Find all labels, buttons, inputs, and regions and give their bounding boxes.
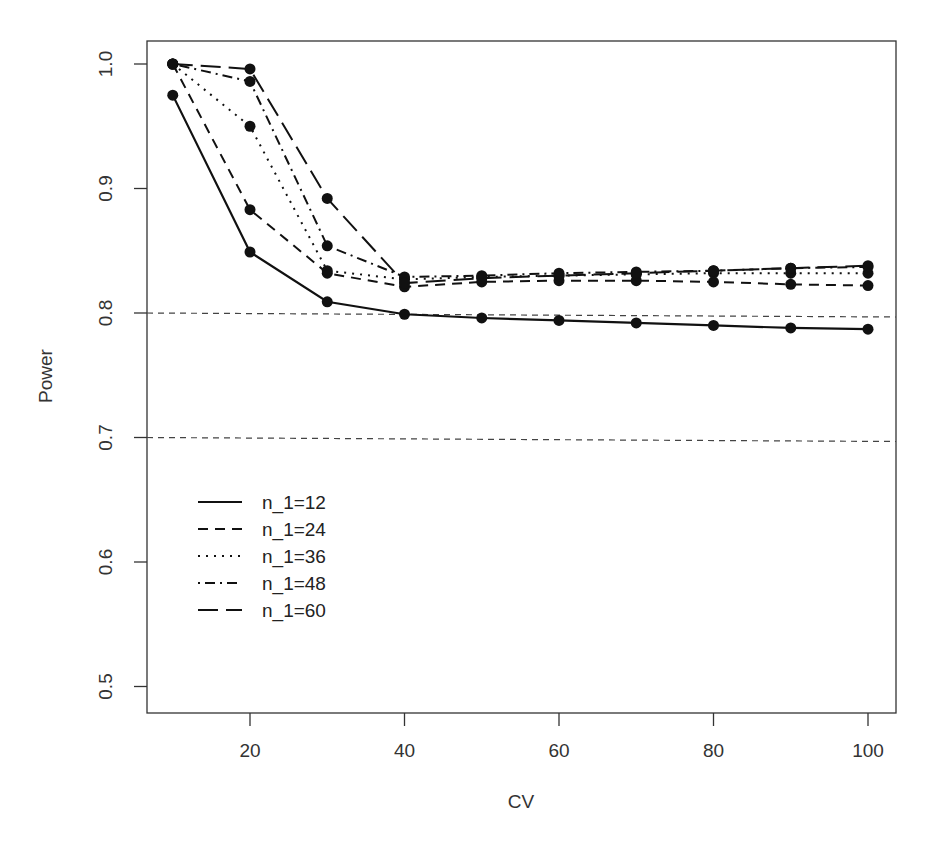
legend-label: n_1=48: [262, 573, 326, 595]
series-n-1-48: [167, 59, 873, 283]
series-line: [173, 95, 868, 329]
data-point: [399, 309, 410, 320]
data-point: [863, 324, 874, 335]
data-point: [785, 279, 796, 290]
data-point: [167, 59, 178, 70]
data-point: [631, 317, 642, 328]
series-line: [173, 64, 868, 279]
data-point: [554, 315, 565, 326]
data-point: [245, 63, 256, 74]
data-point: [322, 265, 333, 276]
data-point: [785, 263, 796, 274]
plot-frame: [147, 41, 896, 713]
x-axis: 20406080100: [239, 713, 883, 761]
data-point: [322, 193, 333, 204]
data-point: [708, 265, 719, 276]
data-point: [631, 268, 642, 279]
y-axis-title: Power: [35, 348, 56, 403]
series-lines: [167, 59, 873, 335]
reference-line-0_7: [147, 438, 896, 442]
x-axis-title: CV: [508, 791, 535, 812]
series-line: [173, 64, 868, 277]
y-tick-label: 0.5: [95, 673, 116, 699]
data-point: [245, 246, 256, 257]
y-tick-label: 0.6: [95, 549, 116, 575]
series-line: [173, 64, 868, 283]
data-point: [167, 90, 178, 101]
data-point: [785, 322, 796, 333]
data-point: [554, 270, 565, 281]
data-point: [245, 204, 256, 215]
legend-item: n_1=36: [198, 546, 326, 568]
y-tick-label: 1.0: [95, 51, 116, 77]
x-tick-label: 60: [548, 740, 569, 761]
reference-lines: [147, 313, 896, 442]
data-point: [399, 278, 410, 289]
series-n-1-24: [167, 59, 873, 293]
reference-line-0_8: [147, 313, 896, 317]
x-tick-label: 80: [703, 740, 724, 761]
legend-item: n_1=60: [198, 600, 326, 622]
series-n-1-60: [167, 59, 873, 289]
legend-item: n_1=24: [198, 519, 326, 541]
legend: n_1=12n_1=24n_1=36n_1=48n_1=60: [198, 492, 326, 622]
x-tick-label: 20: [239, 740, 260, 761]
series-line: [173, 64, 868, 287]
y-tick-label: 0.8: [95, 300, 116, 326]
legend-label: n_1=60: [262, 600, 326, 622]
legend-label: n_1=36: [262, 546, 326, 568]
data-point: [245, 76, 256, 87]
x-tick-label: 40: [394, 740, 415, 761]
data-point: [863, 260, 874, 271]
legend-label: n_1=24: [262, 519, 326, 541]
data-point: [245, 121, 256, 132]
data-point: [476, 273, 487, 284]
data-point: [322, 240, 333, 251]
data-point: [322, 296, 333, 307]
y-tick-label: 0.9: [95, 175, 116, 201]
legend-item: n_1=12: [198, 492, 326, 514]
data-point: [863, 280, 874, 291]
data-point: [476, 312, 487, 323]
series-n-1-12: [167, 90, 873, 335]
y-tick-label: 0.7: [95, 424, 116, 450]
data-point: [708, 320, 719, 331]
series-n-1-36: [167, 59, 873, 285]
power-vs-cv-chart: 20406080100 0.50.60.70.80.91.0 CV Power …: [0, 0, 932, 856]
y-axis: 0.50.60.70.80.91.0: [95, 51, 147, 700]
legend-label: n_1=12: [262, 492, 326, 514]
x-tick-label: 100: [852, 740, 884, 761]
legend-item: n_1=48: [198, 573, 326, 595]
